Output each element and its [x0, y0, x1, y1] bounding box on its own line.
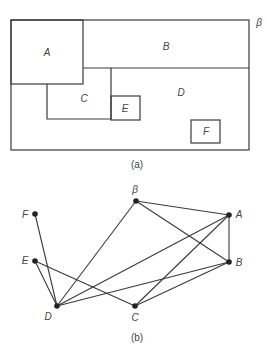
node-a: [226, 212, 232, 218]
edge-a-d: [57, 215, 229, 306]
adjacency-graph: β A B C D E F (b): [22, 184, 243, 343]
edge-beta-b: [136, 201, 229, 262]
node-f-label: F: [22, 209, 29, 220]
edge-beta-d: [57, 201, 136, 306]
region-c-border: [47, 68, 111, 119]
outer-region-label: β: [255, 17, 262, 28]
edge-f-d: [35, 214, 57, 306]
graph-nodes: [32, 198, 232, 309]
node-d: [54, 303, 60, 309]
node-c-label: C: [131, 312, 139, 323]
node-b-label: B: [236, 257, 243, 268]
region-d-label: D: [177, 87, 184, 98]
graph-edges: [35, 201, 229, 306]
region-c-label: C: [80, 93, 88, 104]
region-b-label: B: [163, 41, 170, 52]
node-f: [32, 211, 38, 217]
diagram-canvas: A B C D E F β (a) β A B C D E F (b): [0, 0, 267, 358]
edge-b-d: [57, 262, 229, 306]
edge-a-c: [135, 215, 229, 306]
edge-e-d: [35, 261, 57, 306]
node-a-label: A: [235, 209, 243, 220]
node-b: [226, 259, 232, 265]
node-beta: [133, 198, 139, 204]
node-c: [132, 303, 138, 309]
region-e-label: E: [122, 103, 129, 114]
region-f-label: F: [203, 126, 210, 137]
edge-beta-a: [136, 201, 229, 215]
caption-a: (a): [131, 159, 143, 170]
region-map: A B C D E F β (a): [11, 17, 262, 170]
node-e: [32, 258, 38, 264]
region-a-label: A: [43, 47, 51, 58]
node-e-label: E: [22, 255, 29, 266]
node-beta-label: β: [131, 184, 138, 195]
node-d-label: D: [44, 311, 51, 322]
caption-b: (b): [131, 332, 143, 343]
edge-b-c: [135, 262, 229, 306]
